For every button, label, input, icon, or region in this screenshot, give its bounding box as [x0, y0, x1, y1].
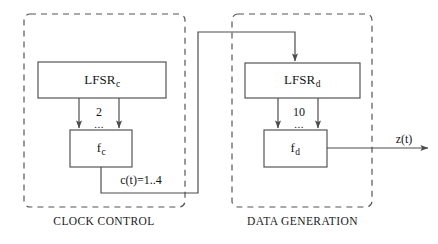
output-signal-label: z(t) [396, 132, 413, 147]
tap-ellipsis-d: ... [294, 118, 304, 130]
group-caption-clock-control: CLOCK CONTROL [0, 215, 208, 227]
block-label-f-d: fd [290, 140, 299, 156]
block-diagram: LFSRc fc LFSRd fd 2 ... 10 ... c(t)=1..4… [0, 0, 438, 244]
block-label-f-c: fc [97, 140, 106, 156]
tap-ellipsis-c: ... [94, 118, 104, 130]
diagram-canvas [0, 0, 438, 244]
wire-f-c-to-lfsr-d [101, 32, 295, 193]
block-label-lfsr-c: LFSRc [84, 72, 119, 88]
clock-control-signal-label: c(t)=1..4 [120, 173, 161, 188]
block-label-lfsr-d: LFSRd [284, 72, 320, 88]
group-caption-data-generation: DATA GENERATION [205, 215, 400, 227]
